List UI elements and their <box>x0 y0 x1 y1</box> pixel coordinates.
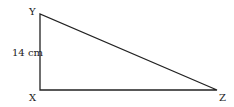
vertex-label-z: Z <box>219 92 226 103</box>
triangle-diagram: Y X Z 14 cm <box>0 0 234 107</box>
triangle-xyz <box>40 14 217 90</box>
vertex-label-y: Y <box>28 6 36 17</box>
side-length-label-xy: 14 cm <box>12 47 44 58</box>
vertex-label-x: X <box>29 92 37 103</box>
